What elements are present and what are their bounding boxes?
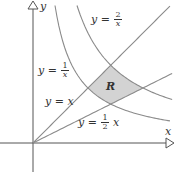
fraction: 2x [114,11,121,28]
label-eq: = [88,116,97,129]
denominator: 2 [101,123,108,131]
denominator: x [61,71,68,79]
label-y-eq-half-x: y = 12 x [78,114,119,131]
region-label: R [106,81,115,92]
label-eq: = [55,95,64,108]
label-eq: = [48,64,57,77]
denominator: x [114,20,121,28]
label-lhs: y [78,116,84,129]
label-lhs: y [45,95,51,108]
label-y-eq-1-over-x: y = 1x [38,62,70,79]
fraction: 12 [101,114,108,131]
y-axis-arrow-icon [28,1,38,9]
x-axis-label: x [165,126,171,137]
fraction: 1x [61,62,68,79]
label-y-eq-x: y = x [45,96,74,107]
y-axis-label: y [40,1,46,12]
label-rhs: x [67,95,73,108]
region-r-shaded [88,65,143,104]
label-lhs: y [38,64,44,77]
label-rhs: x [113,116,119,129]
label-y-eq-2-over-x: y = 2x [91,11,123,28]
label-eq: = [101,13,110,26]
label-lhs: y [91,13,97,26]
x-axis-arrow-icon [166,138,174,148]
